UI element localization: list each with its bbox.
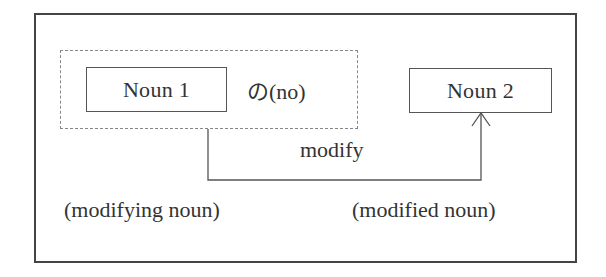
modified-noun-label: (modified noun) [352, 197, 496, 223]
modify-edge-label: modify [300, 137, 364, 163]
modifying-noun-label: (modifying noun) [64, 197, 220, 223]
